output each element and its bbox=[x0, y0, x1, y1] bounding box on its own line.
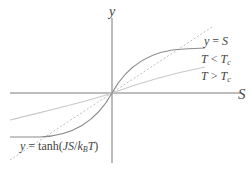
low-temperature-label: T < Tc bbox=[201, 52, 231, 67]
x-axis-label: S bbox=[238, 86, 246, 102]
diagram: y S y = S T < Tc T > Tc y = tanh(JS/kBT) bbox=[0, 0, 252, 171]
identity-line-label: y = S bbox=[203, 34, 228, 48]
y-axis-label: y bbox=[107, 4, 116, 19]
tanh-formula-label: y = tanh(JS/kBT) bbox=[19, 139, 98, 154]
high-temperature-label: T > Tc bbox=[201, 69, 231, 84]
